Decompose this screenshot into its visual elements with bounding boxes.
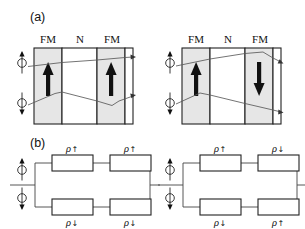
resistor-top-2-label-b-left: ρ↑ xyxy=(123,143,136,154)
spin-up-symbol-a-left xyxy=(18,51,27,74)
resistor-top-1-b-right xyxy=(200,155,241,171)
resistor-top-2-label-b-right: ρ↓ xyxy=(271,143,284,154)
physics-figure: (a) FM N FM xyxy=(0,0,305,229)
resistor-top-1-label-b-right: ρ↑ xyxy=(213,143,226,154)
resistor-top-2-b-left xyxy=(110,155,151,171)
spin-up-symbol-b-right xyxy=(166,158,175,181)
spin-up-symbol-b-left xyxy=(18,158,27,181)
spin-down-symbol-b-left xyxy=(18,188,27,211)
resistor-top-1-b-left xyxy=(52,155,93,171)
resistor-bottom-1-b-left xyxy=(52,199,93,215)
spin-down-symbol-a-right xyxy=(166,93,175,116)
layer-label-fm-left-ap: FM xyxy=(188,33,204,45)
resistor-bottom-1-label-b-left: ρ↓ xyxy=(65,217,78,228)
figure-root: (a) FM N FM xyxy=(0,0,305,229)
panel-a-left-parallel: FM N FM xyxy=(18,33,136,124)
resistor-bottom-2-b-left xyxy=(110,199,151,215)
resistor-bottom-1-b-right xyxy=(200,199,241,215)
panel-a-label: (a) xyxy=(30,10,45,24)
panel-b-label: (b) xyxy=(30,136,45,150)
resistor-top-2-b-right xyxy=(258,155,299,171)
spin-down-symbol-b-right xyxy=(166,188,175,211)
resistor-bottom-2-label-b-left: ρ↓ xyxy=(123,217,136,228)
spin-up-symbol-a-right xyxy=(166,51,175,74)
exit-region xyxy=(125,48,133,124)
panel-a-right-antiparallel: FM N FM xyxy=(166,33,284,124)
layer-label-n-ap: N xyxy=(224,33,232,45)
panel-b-left-circuit: ρ↑ ρ↑ ρ↓ ρ↓ xyxy=(10,143,160,228)
resistor-top-1-label-b-left: ρ↑ xyxy=(65,143,78,154)
resistor-bottom-2-label-b-right: ρ↑ xyxy=(271,217,284,228)
panel-b-right-circuit: ρ↑ ρ↓ ρ↓ ρ↑ xyxy=(158,143,305,228)
layer-label-fm-left: FM xyxy=(40,33,56,45)
layer-label-fm-right: FM xyxy=(104,33,120,45)
n-layer xyxy=(62,48,97,124)
resistor-bottom-2-b-right xyxy=(258,199,299,215)
resistor-bottom-1-label-b-right: ρ↓ xyxy=(213,217,226,228)
layer-label-n: N xyxy=(76,33,84,45)
layer-label-fm-right-ap: FM xyxy=(252,33,268,45)
spin-down-symbol-a-left xyxy=(18,93,27,116)
n-layer-ap xyxy=(210,48,245,124)
